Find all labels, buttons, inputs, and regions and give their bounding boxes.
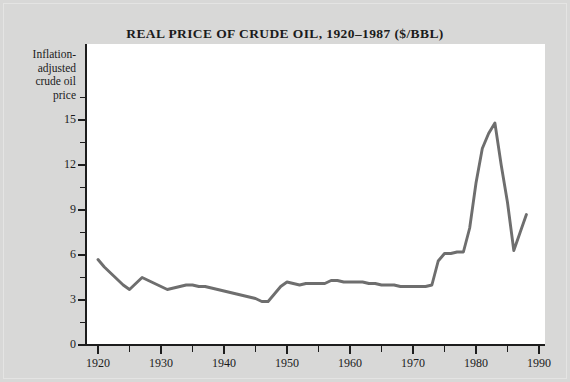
- y-tick-minor: [80, 277, 86, 279]
- x-tick-major: [538, 346, 540, 354]
- y-tick-label: 6: [16, 247, 76, 262]
- x-tick-minor: [129, 346, 131, 352]
- y-tick-label: 15: [16, 112, 76, 127]
- x-tick-major: [286, 346, 288, 354]
- y-tick-major: [78, 164, 86, 166]
- x-tick-label: 1940: [194, 356, 254, 371]
- y-tick-minor: [80, 97, 86, 99]
- y-tick-label: 12: [16, 157, 76, 172]
- y-tick-label: 0: [16, 337, 76, 352]
- x-tick-minor: [255, 346, 257, 352]
- x-tick-minor: [318, 346, 320, 352]
- x-tick-major: [412, 346, 414, 354]
- y-tick-major: [78, 299, 86, 301]
- x-tick-major: [160, 346, 162, 354]
- x-tick-label: 1960: [320, 356, 380, 371]
- y-tick-minor: [80, 322, 86, 324]
- y-tick-major: [78, 344, 86, 346]
- x-tick-minor: [507, 346, 509, 352]
- x-tick-minor: [444, 346, 446, 352]
- y-tick-major: [78, 254, 86, 256]
- x-tick-label: 1920: [68, 356, 128, 371]
- x-tick-label: 1930: [131, 356, 191, 371]
- y-tick-label: 3: [16, 292, 76, 307]
- x-tick-label: 1980: [446, 356, 506, 371]
- x-tick-major: [97, 346, 99, 354]
- x-tick-label: 1950: [257, 356, 317, 371]
- x-tick-major: [475, 346, 477, 354]
- y-tick-minor: [80, 187, 86, 189]
- y-tick-minor: [80, 232, 86, 234]
- x-tick-major: [349, 346, 351, 354]
- chart-title: REAL PRICE OF CRUDE OIL, 1920–1987 ($/BB…: [0, 26, 570, 42]
- y-tick-label: 9: [16, 202, 76, 217]
- chart-page: REAL PRICE OF CRUDE OIL, 1920–1987 ($/BB…: [0, 0, 570, 382]
- x-tick-label: 1970: [383, 356, 443, 371]
- y-axis-caption: Inflation-adjusted crude oil price: [16, 48, 76, 102]
- x-tick-major: [223, 346, 225, 354]
- y-tick-minor: [80, 142, 86, 144]
- plot-area: [86, 44, 545, 345]
- x-tick-minor: [381, 346, 383, 352]
- x-tick-label: 1990: [509, 356, 569, 371]
- y-tick-major: [78, 119, 86, 121]
- x-tick-minor: [192, 346, 194, 352]
- y-tick-major: [78, 209, 86, 211]
